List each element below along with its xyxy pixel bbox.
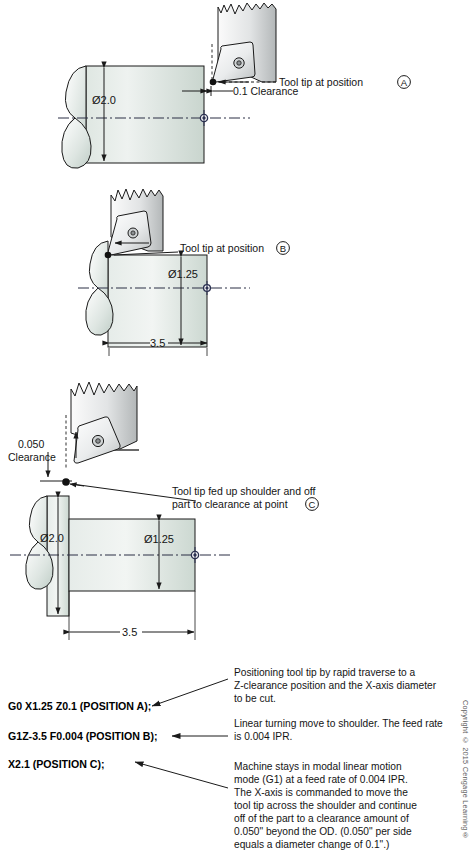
desc-1-line-1: Positioning tool tip by rapid traverse t… [234,667,416,678]
panel-a: Ø2.0 0.1 Clearance Tool tip at position … [58,3,410,168]
panel-b: Ø1.25 3.5 Tool tip at position B [78,189,289,356]
tool-tip-label-c-line1: Tool tip fed up shoulder and off [172,485,315,497]
svg-text:A: A [401,77,408,88]
svg-text:C: C [309,499,316,510]
large-diameter-label-c: Ø2.0 [40,532,64,544]
tool-tip-label-c-line2: part to clearance at point [172,498,288,510]
panel-c: 0.050 Clearance Ø2.0 Ø1.25 [8,382,318,640]
dimension-clearance-c: 0.050 Clearance [8,438,72,481]
tool-tip-label-a: Tool tip at position [279,76,363,88]
leader-arrow-1 [152,679,228,706]
program-block: G0 X1.25 Z0.1 (POSITION A); Positioning … [8,667,443,850]
diameter-label-b: Ø1.25 [168,268,198,280]
desc-3-line-5: off of the part to a clearance amount of [234,813,409,824]
diameter-label-a: Ø2.0 [92,94,116,106]
length-label-c: 3.5 [122,626,137,638]
clearance-word-c: Clearance [8,451,56,463]
gcode-line-3[interactable]: X2.1 (POSITION C); [8,758,105,770]
dimension-length-c: 3.5 [69,591,195,640]
desc-3-line-3: The X-axis is commanded to move the [234,787,408,798]
clearance-value-c: 0.050 [18,438,44,450]
desc-2-line-2: is 0.004 IPR. [234,731,292,742]
tool-tip-point-b [105,252,112,259]
desc-2-line-1: Linear turning move to shoulder. The fee… [234,718,443,729]
tool-tip-point-a [210,79,217,86]
desc-3-line-1: Machine stays in modal linear motion [234,761,402,772]
tool-tip-point-c [62,478,70,486]
gcode-line-1[interactable]: G0 X1.25 Z0.1 (POSITION A); [8,700,151,712]
length-label-b: 3.5 [150,337,165,349]
desc-3-line-6: 0.050" beyond the OD. (0.050" per side [234,826,412,837]
workpiece-c [26,496,195,616]
desc-3-line-4: tool tip across the shoulder and continu… [234,800,417,811]
svg-text:B: B [280,243,286,254]
desc-1-line-2: Z-clearance position and the X-axis diam… [234,680,437,691]
desc-1-line-3: to be cut. [234,693,276,704]
desc-3-line-2: mode (G1) at a feed rate of 0.004 IPR. [234,774,408,785]
leader-arrow-3 [135,762,228,788]
technical-figure: 0% [0,0,471,863]
tool-tip-label-b: Tool tip at position [180,242,264,254]
position-letter-c: C [306,498,319,511]
workpiece-a [62,66,204,168]
workpiece-b [86,241,207,347]
gcode-line-2[interactable]: G1Z-3.5 F0.004 (POSITION B); [8,730,158,742]
position-letter-a: A [398,76,411,89]
position-letter-b: B [277,242,290,255]
small-diameter-label-c: Ø1.25 [144,533,174,545]
copyright-notice: Copyright © 2015 Cengage Learning® [461,700,470,840]
desc-3-line-7: equals a diameter change of 0.1".) [234,839,389,850]
